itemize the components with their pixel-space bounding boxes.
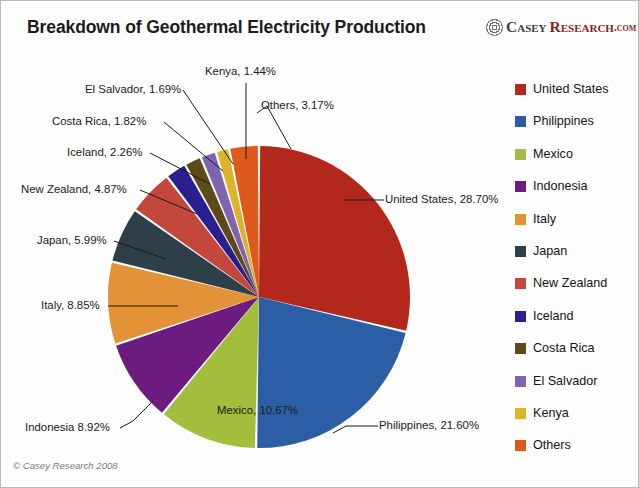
legend-item-label: United States — [533, 83, 609, 96]
legend-item-label: Philippines — [533, 115, 594, 128]
legend-item[interactable]: Iceland — [515, 310, 637, 323]
legend-swatch-icon — [515, 376, 526, 387]
legend-swatch-icon — [515, 149, 526, 160]
legend-item[interactable]: Indonesia — [515, 180, 637, 193]
pie-slice-group — [108, 146, 410, 448]
legend-item[interactable]: Kenya — [515, 407, 637, 420]
legend-item[interactable]: Japan — [515, 245, 637, 258]
pie-chart-area: United States, 28.70% Philippines, 21.60… — [1, 1, 506, 488]
callout-united-states: United States, 28.70% — [385, 193, 498, 205]
legend-swatch-icon — [515, 246, 526, 257]
legend-item-label: Costa Rica — [533, 342, 595, 355]
legend-item[interactable]: Mexico — [515, 148, 637, 161]
legend-item-label: Indonesia — [533, 180, 588, 193]
legend-item-label: Others — [533, 439, 571, 452]
legend-swatch-icon — [515, 343, 526, 354]
legend-item-label: Italy — [533, 213, 556, 226]
legend-item[interactable]: El Salvador — [515, 375, 637, 388]
callout-el-salvador: El Salvador, 1.69% — [85, 83, 181, 95]
legend-swatch-icon — [515, 181, 526, 192]
legend-item-label: Japan — [533, 245, 567, 258]
legend-swatch-icon — [515, 214, 526, 225]
callout-new-zealand: New Zealand, 4.87% — [21, 183, 127, 195]
callout-indonesia: Indonesia 8.92% — [25, 421, 110, 433]
legend-item-label: El Salvador — [533, 375, 597, 388]
chart-frame: Breakdown of Geothermal Electricity Prod… — [0, 0, 639, 488]
legend-swatch-icon — [515, 311, 526, 322]
casey-research-logo[interactable]: Casey Research .com — [486, 18, 636, 36]
legend-item[interactable]: Philippines — [515, 115, 637, 128]
callout-japan: Japan, 5.99% — [37, 234, 107, 246]
callout-philippines: Philippines, 21.60% — [379, 419, 479, 431]
legend-swatch-icon — [515, 278, 526, 289]
logo-text-research: Research — [550, 18, 614, 36]
callout-others: Others, 3.17% — [261, 99, 334, 111]
legend-swatch-icon — [515, 116, 526, 127]
legend-item[interactable]: United States — [515, 83, 637, 96]
chart-legend: United StatesPhilippinesMexicoIndonesiaI… — [515, 83, 637, 472]
callout-costa-rica: Costa Rica, 1.82% — [52, 115, 146, 127]
legend-item[interactable]: Others — [515, 439, 637, 452]
callout-mexico: Mexico, 10.67% — [217, 404, 298, 416]
legend-item-label: Mexico — [533, 148, 573, 161]
leader-line-indonesia — [120, 401, 153, 428]
callout-kenya: Kenya, 1.44% — [205, 65, 276, 77]
logo-text-dotcom: .com — [614, 21, 636, 33]
legend-item-label: Iceland — [533, 310, 574, 323]
leader-line-el-salvador — [183, 90, 233, 164]
callout-italy: Italy, 8.85% — [41, 299, 100, 311]
legend-swatch-icon — [515, 440, 526, 451]
copyright-notice: © Casey Research 2008 — [13, 460, 118, 471]
legend-item-label: Kenya — [533, 407, 569, 420]
legend-item[interactable]: Costa Rica — [515, 342, 637, 355]
leader-line-philippines — [333, 426, 378, 433]
legend-swatch-icon — [515, 84, 526, 95]
logo-text-casey: Casey — [506, 18, 547, 36]
legend-item-label: New Zealand — [533, 277, 607, 290]
legend-swatch-icon — [515, 408, 526, 419]
legend-item[interactable]: New Zealand — [515, 277, 637, 290]
callout-iceland: Iceland, 2.26% — [67, 146, 142, 158]
leader-line-others — [257, 106, 291, 149]
legend-item[interactable]: Italy — [515, 213, 637, 226]
